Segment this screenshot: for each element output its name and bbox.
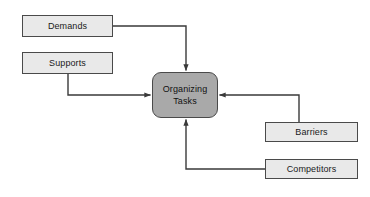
- edge-supports-to-center: [68, 74, 151, 95]
- node-supports[interactable]: Supports: [22, 52, 113, 74]
- diagram-canvas: Demands Supports Barriers Competitors Or…: [0, 0, 370, 197]
- node-competitors-label: Competitors: [287, 164, 337, 175]
- node-organizing-tasks[interactable]: Organizing Tasks: [152, 72, 218, 118]
- node-competitors[interactable]: Competitors: [265, 159, 358, 179]
- node-barriers[interactable]: Barriers: [265, 122, 358, 142]
- node-organizing-tasks-label-line1: Organizing: [163, 83, 208, 95]
- node-organizing-tasks-label-line2: Tasks: [173, 95, 197, 107]
- node-demands-label: Demands: [48, 21, 87, 32]
- edge-competitors-to-center: [186, 120, 265, 170]
- node-demands[interactable]: Demands: [22, 15, 113, 37]
- node-supports-label: Supports: [49, 58, 86, 69]
- node-barriers-label: Barriers: [295, 127, 327, 138]
- edge-demands-to-center: [113, 26, 186, 71]
- edge-barriers-to-center: [220, 95, 300, 122]
